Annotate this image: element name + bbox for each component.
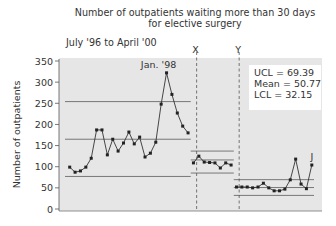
data-point	[235, 186, 238, 189]
data-point	[181, 125, 184, 128]
data-point	[246, 186, 249, 189]
data-point	[273, 189, 276, 192]
y-tick-label: 300	[35, 77, 53, 88]
mean-label: Mean = 50.77	[254, 78, 321, 89]
data-point	[305, 187, 308, 190]
data-point	[224, 161, 227, 164]
annotation-label: J	[309, 151, 313, 162]
data-point	[111, 138, 114, 141]
data-point	[74, 171, 77, 174]
data-point	[230, 164, 233, 167]
data-point	[79, 169, 82, 172]
data-point	[165, 71, 168, 74]
data-point	[68, 166, 71, 169]
annotation-label: Jan. '98	[140, 59, 176, 70]
data-point	[289, 178, 292, 181]
phase-label-x: X	[192, 44, 199, 55]
data-point	[208, 161, 211, 164]
data-point	[144, 155, 147, 158]
data-point	[267, 186, 270, 189]
plot-area: 050100150200250300350Number of outpatien…	[0, 0, 336, 226]
data-point	[84, 166, 87, 169]
data-point	[300, 183, 303, 186]
annotation-label: A	[325, 0, 332, 2]
ucl-label: UCL = 69.39	[254, 67, 314, 78]
data-point	[219, 166, 222, 169]
data-point	[283, 188, 286, 191]
data-point	[127, 131, 130, 134]
data-point	[106, 153, 109, 156]
data-point	[251, 186, 254, 189]
y-tick-label: 250	[35, 98, 53, 109]
data-point	[310, 164, 313, 167]
data-point	[213, 161, 216, 164]
data-point	[100, 128, 103, 131]
y-axis-label: Number of outpatients	[11, 81, 22, 189]
y-tick-label: 200	[35, 119, 53, 130]
phase-label-y: Y	[234, 44, 241, 55]
data-point	[240, 186, 243, 189]
data-point	[262, 182, 265, 185]
lcl-label: LCL = 32.15	[254, 89, 312, 100]
data-point	[138, 136, 141, 139]
data-point	[192, 161, 195, 164]
data-point	[117, 150, 120, 153]
y-tick-label: 50	[41, 182, 53, 193]
data-point	[95, 128, 98, 131]
data-point	[170, 93, 173, 96]
y-tick-label: 0	[47, 204, 53, 215]
y-tick-label: 150	[35, 140, 53, 151]
data-point	[90, 157, 93, 160]
data-point	[154, 141, 157, 144]
data-point	[149, 152, 152, 155]
data-point	[294, 158, 297, 161]
y-tick-label: 350	[35, 56, 53, 67]
data-point	[257, 186, 260, 189]
data-point	[278, 189, 281, 192]
data-point	[122, 142, 125, 145]
data-point	[176, 112, 179, 115]
control-limits-box: UCL = 69.39 Mean = 50.77 LCL = 32.15	[249, 65, 321, 110]
data-point	[133, 142, 136, 145]
control-chart: Number of outpatients waiting more than …	[0, 0, 336, 226]
y-tick-label: 100	[35, 161, 53, 172]
data-point	[187, 131, 190, 134]
data-point	[197, 155, 200, 158]
data-point	[203, 161, 206, 164]
data-point	[160, 103, 163, 106]
